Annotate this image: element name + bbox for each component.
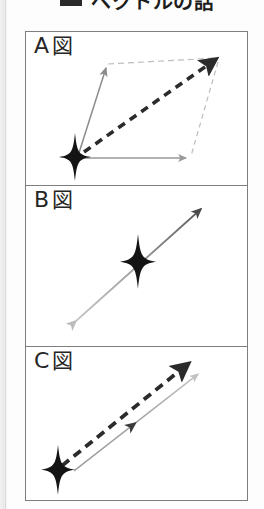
page-title: ベクトルの話 bbox=[91, 0, 214, 15]
panel-b-label: B図 bbox=[34, 189, 73, 211]
panel-a: A図 bbox=[26, 32, 247, 186]
panel-b-letter: B bbox=[34, 189, 49, 211]
dashed-construction-top bbox=[108, 58, 216, 64]
figure-frame: A図 bbox=[25, 31, 248, 501]
panel-b-suffix: 図 bbox=[52, 190, 73, 211]
origin-star bbox=[59, 133, 91, 181]
gray-vector-up-left bbox=[78, 68, 106, 156]
panel-c-label: C図 bbox=[34, 350, 73, 372]
bold-dashed-vector bbox=[62, 367, 184, 466]
panel-a-suffix: 図 bbox=[52, 36, 73, 57]
panel-c-letter: C bbox=[34, 350, 49, 372]
panel-c: C図 bbox=[26, 347, 247, 500]
center-star bbox=[120, 234, 156, 289]
square-bullet-icon bbox=[60, 0, 82, 6]
panel-a-label: A図 bbox=[34, 35, 73, 57]
dashed-construction-right bbox=[191, 62, 218, 156]
panel-a-letter: A bbox=[34, 35, 49, 57]
panel-c-suffix: 図 bbox=[52, 351, 73, 372]
origin-star bbox=[41, 445, 75, 495]
page-title-band: ベクトルの話 bbox=[0, 0, 264, 16]
scan-page-edge-line bbox=[5, 0, 6, 509]
panel-b: B図 bbox=[26, 186, 247, 347]
gray-vector-mid-arrowhead bbox=[124, 418, 140, 434]
